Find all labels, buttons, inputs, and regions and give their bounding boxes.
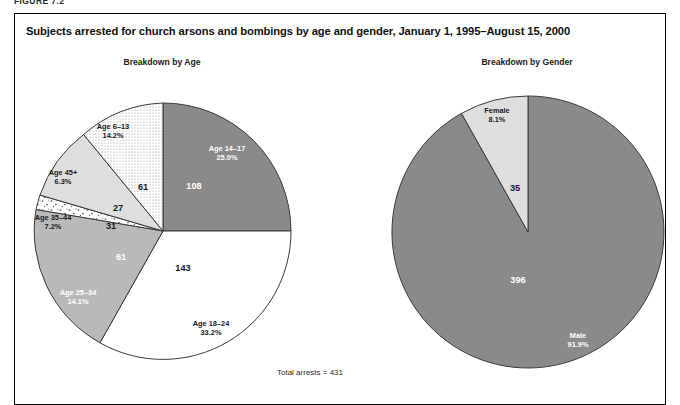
figure-caption: FIGURE 7.2 [14, 0, 64, 6]
gender-pie-chart [390, 94, 666, 370]
total-arrests-note: Total arrests = 431 [277, 368, 343, 377]
age-pie-chart [32, 100, 294, 362]
gender-chart-title: Breakdown by Gender [481, 57, 572, 67]
figure-title: Subjects arrested for church arsons and … [26, 25, 570, 37]
gender-pie-svg [390, 94, 666, 370]
age-pie-svg [32, 100, 294, 362]
age-chart-title: Breakdown by Age [123, 57, 200, 67]
age-slice-14-17 [163, 103, 291, 231]
